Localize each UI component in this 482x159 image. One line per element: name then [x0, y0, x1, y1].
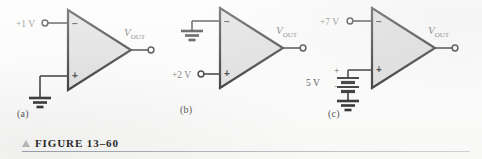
output-label-c: VOUT: [428, 24, 450, 39]
inverting-pin-symbol-b: −: [224, 16, 230, 27]
noninverting-pin-symbol-b: +: [224, 68, 230, 79]
output-label-b: VOUT: [276, 24, 298, 39]
circuit-sublabel-b: (b): [180, 104, 192, 115]
source-label-b-noninverting: +2 V: [172, 70, 191, 80]
source-label-a-inverting: +1 V: [16, 19, 35, 29]
ground-icon-c: [337, 101, 359, 110]
caption-divider: [22, 151, 470, 152]
output-terminal-c[interactable]: [452, 45, 458, 51]
battery-icon-c: [337, 78, 359, 101]
figure-page: +1 V − + VOUT (a): [0, 0, 482, 159]
battery-negative-symbol-c: −: [334, 82, 339, 92]
ground-icon-a: [29, 98, 51, 107]
output-terminal-a[interactable]: [148, 47, 154, 53]
battery-value-label-c: 5 V: [306, 78, 320, 88]
output-label-b-sub: OUT: [283, 31, 298, 39]
output-label-a: VOUT: [124, 26, 146, 41]
ground-icon-b: [181, 31, 203, 40]
inverting-pin-symbol-a: −: [72, 18, 78, 29]
noninverting-input-terminal-b[interactable]: [198, 71, 204, 77]
triangle-up-icon: [22, 140, 30, 147]
inverting-pin-symbol-c: −: [376, 16, 382, 27]
output-label-c-sub: OUT: [435, 31, 450, 39]
source-label-c-inverting: +7 V: [320, 17, 339, 27]
inverting-input-terminal-a[interactable]: [42, 20, 48, 26]
noninverting-pin-symbol-a: +: [72, 70, 78, 81]
inverting-input-terminal-c[interactable]: [347, 18, 353, 24]
noninverting-pin-symbol-c: +: [376, 64, 382, 75]
circuit-sublabel-a: (a): [17, 108, 29, 119]
figure-caption-text: FIGURE 13–60: [35, 137, 119, 149]
circuit-sublabel-c: (c): [328, 108, 340, 119]
output-label-a-sub: OUT: [131, 33, 146, 41]
battery-positive-symbol-c: +: [334, 66, 339, 76]
figure-caption: FIGURE 13–60: [22, 137, 119, 149]
